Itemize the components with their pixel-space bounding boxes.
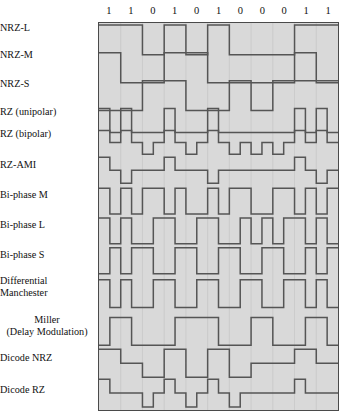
waveform-label-nrz-l: NRZ-L — [0, 22, 92, 34]
waveform-trace-bi-phase-l — [99, 218, 338, 244]
waveform-label-diff-manch: Differential Manchester — [0, 275, 92, 298]
bit-label-1: 1 — [124, 3, 138, 18]
waveform-trace-rz-bipolar — [99, 130, 338, 154]
waveform-traces — [99, 25, 338, 407]
waveform-trace-nrz-l — [99, 25, 338, 55]
waveform-trace-bi-phase-m — [99, 188, 338, 214]
bit-label-3: 1 — [168, 3, 182, 18]
waveform-trace-bi-phase-s — [99, 248, 338, 274]
bit-label-4: 0 — [190, 3, 204, 18]
bit-label-0: 1 — [102, 3, 116, 18]
waveform-label-rz-bipolar: RZ (bipolar) — [0, 128, 92, 140]
bit-label-6: 0 — [233, 3, 247, 18]
waveform-trace-dicode-nrz — [99, 349, 338, 377]
waveform-trace-dicode-rz — [99, 379, 338, 407]
waveform-label-miller: Miller (Delay Modulation) — [0, 314, 94, 337]
waveform-trace-miller — [99, 317, 338, 345]
waveform-label-bi-phase-m: Bi-phase M — [0, 189, 92, 201]
waveform-label-bi-phase-s: Bi-phase S — [0, 249, 92, 261]
bit-label-10: 1 — [321, 3, 335, 18]
line-coding-figure: NRZ-LNRZ-MNRZ-SRZ (unipolar)RZ (bipolar)… — [0, 0, 353, 419]
waveform-label-dicode-nrz: Dicode NRZ — [0, 352, 92, 364]
waveform-label-rz-unipolar: RZ (unipolar) — [0, 106, 92, 118]
bit-label-2: 0 — [146, 3, 160, 18]
waveform-trace-rz-unipolar — [99, 109, 338, 133]
waveform-trace-nrz-m — [99, 53, 338, 83]
bit-label-9: 1 — [299, 3, 313, 18]
waveform-label-nrz-m: NRZ-M — [0, 49, 92, 61]
waveform-label-bi-phase-l: Bi-phase L — [0, 219, 92, 231]
bit-label-5: 1 — [212, 3, 226, 18]
waveform-label-column: NRZ-LNRZ-MNRZ-SRZ (unipolar)RZ (bipolar)… — [0, 0, 96, 419]
waveform-label-dicode-rz: Dicode RZ — [0, 384, 92, 396]
bit-label-7: 0 — [255, 3, 269, 18]
waveform-label-nrz-s: NRZ-S — [0, 78, 92, 90]
waveform-canvas — [99, 23, 338, 410]
waveform-label-rz-ami: RZ-AMI — [0, 159, 92, 171]
bit-label-8: 0 — [277, 3, 291, 18]
waveform-trace-nrz-s — [99, 81, 338, 111]
waveform-trace-diff-manch — [99, 280, 338, 308]
bit-sequence-header: 11010100011 — [98, 3, 339, 20]
waveform-panel — [98, 22, 339, 411]
waveform-trace-rz-ami — [99, 157, 338, 183]
